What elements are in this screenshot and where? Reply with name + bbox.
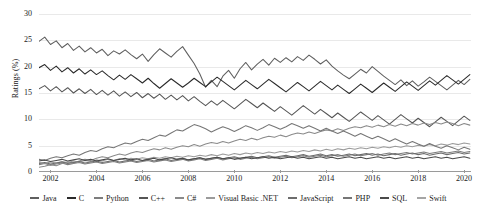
legend-swatch-c: [175, 197, 184, 199]
legend-label-swift: Swift: [429, 194, 446, 203]
legend-item-swift[interactable]: Swift: [417, 194, 446, 203]
series-lines: [39, 14, 471, 172]
y-axis-tick-labels: 051015202530: [0, 14, 36, 172]
plot-area: [39, 14, 471, 172]
legend-label-c: C: [79, 194, 84, 203]
legend-label-sql: SQL: [392, 194, 407, 203]
y-tick-15: 15: [24, 89, 32, 97]
legend-swatch-visual-basic-net: [206, 197, 215, 199]
legend-label-c: C++: [151, 194, 165, 203]
legend-label-javascript: JavaScript: [300, 194, 333, 203]
legend-item-python[interactable]: Python: [94, 194, 129, 203]
x-tick-mark-2002: [50, 170, 51, 173]
legend-label-python: Python: [106, 194, 129, 203]
y-tick-10: 10: [24, 115, 32, 123]
y-tick-0: 0: [28, 168, 32, 176]
legend-item-visual-basic-net[interactable]: Visual Basic .NET: [206, 194, 278, 203]
legend-swatch-sql: [380, 197, 389, 199]
x-tick-2002: 2002: [42, 174, 58, 183]
legend-item-c[interactable]: C: [67, 194, 84, 203]
x-tick-mark-2020: [464, 170, 465, 173]
legend-item-php[interactable]: PHP: [343, 194, 370, 203]
series-line-c: [39, 86, 470, 127]
legend-swatch-java: [30, 197, 39, 199]
x-tick-mark-2006: [142, 170, 143, 173]
legend-label-visual-basic-net: Visual Basic .NET: [218, 194, 278, 203]
legend-item-sql[interactable]: SQL: [380, 194, 407, 203]
legend-label-java: Java: [42, 194, 56, 203]
legend-swatch-c: [139, 197, 148, 199]
x-tick-2020: 2020: [456, 174, 472, 183]
y-tick-5: 5: [28, 142, 32, 150]
chart-legend: JavaCPythonC++C#Visual Basic .NETJavaScr…: [0, 190, 477, 206]
x-tick-mark-2008: [188, 170, 189, 173]
legend-label-c: C#: [187, 194, 196, 203]
x-tick-mark-2004: [96, 170, 97, 173]
y-tick-25: 25: [24, 36, 32, 44]
x-tick-2006: 2006: [134, 174, 150, 183]
legend-item-c[interactable]: C++: [139, 194, 165, 203]
legend-item-c[interactable]: C#: [175, 194, 196, 203]
x-axis-line: [39, 171, 471, 172]
x-tick-2010: 2010: [226, 174, 242, 183]
y-tick-30: 30: [24, 10, 32, 18]
legend-item-javascript[interactable]: JavaScript: [288, 194, 333, 203]
x-tick-2008: 2008: [180, 174, 196, 183]
legend-label-php: PHP: [355, 194, 370, 203]
x-axis-tick-labels: 2002200420062008201020122014201620182020: [39, 173, 471, 187]
series-line-c: [39, 65, 470, 94]
legend-swatch-swift: [417, 197, 426, 199]
chart-figure: Ratings (%) 051015202530 200220042006200…: [0, 0, 477, 215]
x-tick-mark-2010: [234, 170, 235, 173]
x-tick-2016: 2016: [364, 174, 380, 183]
x-tick-mark-2012: [280, 170, 281, 173]
legend-swatch-c: [67, 197, 76, 199]
x-tick-mark-2016: [372, 170, 373, 173]
x-tick-2018: 2018: [410, 174, 426, 183]
series-line-java: [39, 37, 470, 90]
x-tick-mark-2014: [326, 170, 327, 173]
x-tick-mark-2018: [418, 170, 419, 173]
x-tick-2014: 2014: [318, 174, 334, 183]
y-tick-20: 20: [24, 63, 32, 71]
legend-swatch-php: [343, 197, 352, 199]
x-tick-2004: 2004: [88, 174, 104, 183]
legend-item-java[interactable]: Java: [30, 194, 56, 203]
legend-swatch-javascript: [288, 197, 297, 199]
legend-swatch-python: [94, 197, 103, 199]
x-tick-2012: 2012: [272, 174, 288, 183]
